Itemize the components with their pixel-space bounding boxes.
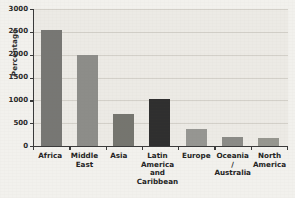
x-axis-label-line: Africa xyxy=(34,152,66,161)
bar-chart: Percentage 050010001500200025003000 Afri… xyxy=(0,0,295,198)
y-tick-label: 500 xyxy=(13,119,28,127)
y-tick: 3000 xyxy=(0,9,33,10)
x-axis-label-line: Europe xyxy=(180,152,212,161)
x-axis-label-line: Australia xyxy=(214,169,251,178)
bar[interactable] xyxy=(222,137,243,146)
bar-slot xyxy=(33,9,69,146)
bar[interactable] xyxy=(77,55,98,146)
x-axis-label: NorthAmerica xyxy=(252,152,287,186)
x-axis-label: LatinAmericaandCaribbean xyxy=(136,152,179,186)
x-tick-mark xyxy=(33,146,34,150)
x-axis-label-line: America xyxy=(253,161,286,170)
bar-slot xyxy=(142,9,178,146)
bar[interactable] xyxy=(149,99,170,146)
x-tick-mark xyxy=(287,146,288,150)
x-axis-label: MiddleEast xyxy=(67,152,101,186)
x-axis-label-line: Caribbean xyxy=(137,178,178,187)
bar-slot xyxy=(214,9,250,146)
bar-slot xyxy=(106,9,142,146)
bar-slot xyxy=(69,9,105,146)
x-axis-label-line: Oceania / xyxy=(214,152,251,169)
x-tick-mark xyxy=(69,146,70,150)
y-tick: 2500 xyxy=(0,32,33,33)
y-tick-label: 2500 xyxy=(9,27,28,35)
x-tick-mark xyxy=(178,146,179,150)
y-tick: 500 xyxy=(0,123,33,124)
x-axis-label: Oceania /Australia xyxy=(213,152,252,186)
bar[interactable] xyxy=(258,138,279,146)
x-axis-label-line: East xyxy=(68,161,100,170)
y-tick-label: 2000 xyxy=(9,50,28,58)
x-tick-mark xyxy=(251,146,252,150)
x-tick-mark xyxy=(214,146,215,150)
x-axis-ticks xyxy=(33,146,287,150)
bar[interactable] xyxy=(113,114,134,146)
x-axis-labels: AfricaMiddleEastAsiaLatinAmericaandCarib… xyxy=(33,152,287,186)
bars-group xyxy=(33,9,287,146)
y-tick-label: 3000 xyxy=(9,5,28,13)
y-tick-label: 1000 xyxy=(9,96,28,104)
y-tick: 1000 xyxy=(0,100,33,101)
bar[interactable] xyxy=(41,30,62,146)
y-tick-label: 0 xyxy=(23,142,28,150)
x-tick-mark xyxy=(106,146,107,150)
y-tick-label: 1500 xyxy=(9,73,28,81)
x-tick-mark xyxy=(142,146,143,150)
y-tick: 0 xyxy=(0,146,33,147)
y-tick: 1500 xyxy=(0,78,33,79)
bar-slot xyxy=(178,9,214,146)
x-axis-label-line: Asia xyxy=(103,152,135,161)
bar[interactable] xyxy=(186,129,207,146)
x-axis-label: Africa xyxy=(33,152,67,186)
y-tick: 2000 xyxy=(0,55,33,56)
x-axis-label: Asia xyxy=(102,152,136,186)
x-axis-label: Europe xyxy=(179,152,213,186)
bar-slot xyxy=(251,9,287,146)
